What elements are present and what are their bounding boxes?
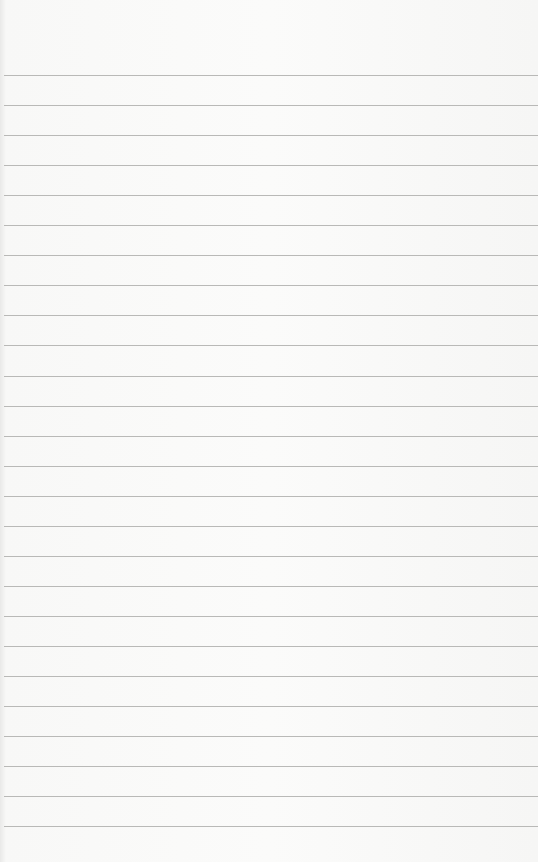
ruled-line xyxy=(4,436,538,437)
ruled-line xyxy=(4,225,538,226)
ruled-line xyxy=(4,676,538,677)
ruled-line xyxy=(4,646,538,647)
ruled-line xyxy=(4,586,538,587)
ruled-line xyxy=(4,526,538,527)
ruled-line xyxy=(4,406,538,407)
lined-paper xyxy=(0,0,538,862)
ruled-line xyxy=(4,105,538,106)
ruled-line xyxy=(4,616,538,617)
ruled-line xyxy=(4,165,538,166)
ruled-line xyxy=(4,796,538,797)
ruled-line xyxy=(4,706,538,707)
ruled-line xyxy=(4,75,538,76)
ruled-line xyxy=(4,315,538,316)
ruled-line xyxy=(4,826,538,827)
ruled-line xyxy=(4,496,538,497)
ruled-line xyxy=(4,285,538,286)
ruled-line xyxy=(4,255,538,256)
ruled-line xyxy=(4,376,538,377)
ruled-line xyxy=(4,345,538,346)
ruled-line xyxy=(4,766,538,767)
ruled-line xyxy=(4,195,538,196)
ruled-line xyxy=(4,135,538,136)
ruled-line xyxy=(4,556,538,557)
ruled-line xyxy=(4,466,538,467)
ruled-line xyxy=(4,736,538,737)
